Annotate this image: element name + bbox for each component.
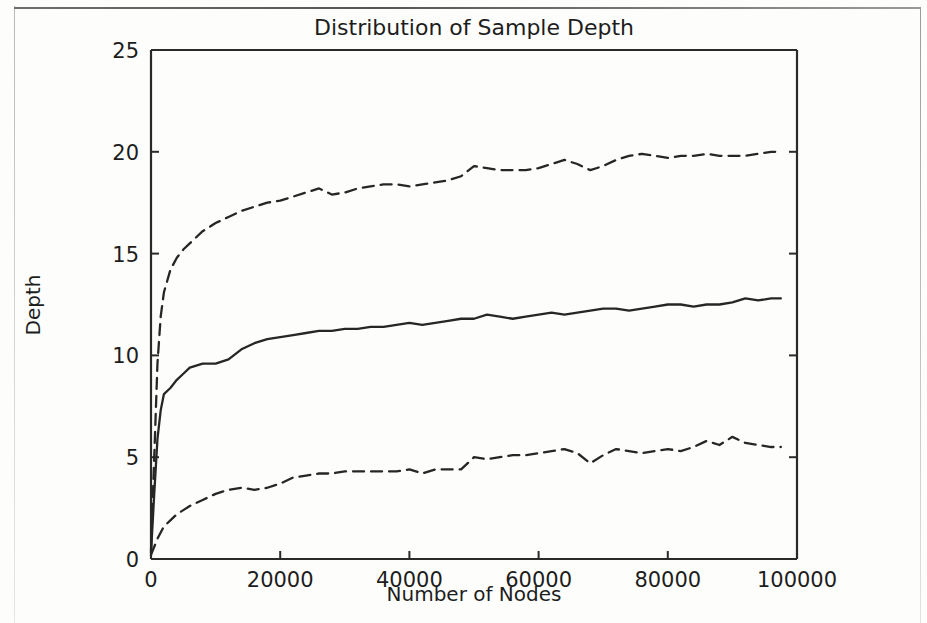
y-tick-label: 20 [112,141,139,165]
scanned-page: Distribution of Sample Depth 02000040000… [0,0,927,623]
y-tick-label: 5 [126,446,139,470]
y-tick-label: 10 [112,344,139,368]
y-tick-label: 15 [112,243,139,267]
x-axis-label: Number of Nodes [387,582,562,606]
x-tick-label: 80000 [634,568,701,592]
y-tick-label: 0 [126,548,139,572]
chart-title: Distribution of Sample Depth [314,15,634,40]
figure-caption-cutoff [30,612,650,623]
x-tick-label: 0 [144,568,157,592]
series-upper [151,152,781,551]
y-axis-label: Depth [21,275,45,336]
series-lower [151,437,781,555]
depth-distribution-chart: Distribution of Sample Depth 02000040000… [0,0,927,623]
x-tick-label: 100000 [757,568,837,592]
data-series-layer [151,152,781,555]
y-tick-label: 25 [112,39,139,63]
x-tick-label: 20000 [247,568,314,592]
series-median [151,298,781,553]
chart-figure: Distribution of Sample Depth 02000040000… [0,0,927,623]
